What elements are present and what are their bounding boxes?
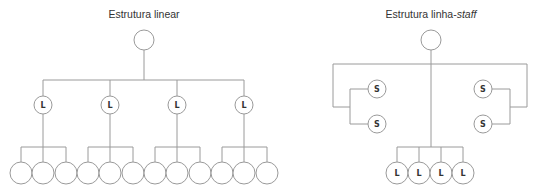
subordinate-node bbox=[256, 162, 278, 184]
org-node-label: L bbox=[416, 169, 421, 178]
subordinate-node bbox=[211, 162, 233, 184]
subordinate-node bbox=[189, 162, 211, 184]
org-node-label: L bbox=[107, 101, 112, 110]
subordinate-node bbox=[122, 162, 144, 184]
subordinate-node bbox=[32, 162, 54, 184]
subordinate-node bbox=[233, 162, 255, 184]
subordinate-node bbox=[166, 162, 188, 184]
org-node-label: L bbox=[174, 101, 179, 110]
org-node-label: S bbox=[480, 85, 486, 94]
org-node-label: S bbox=[374, 120, 380, 129]
top-manager-node bbox=[421, 30, 441, 50]
subordinate-node bbox=[10, 162, 32, 184]
subordinate-node bbox=[77, 162, 99, 184]
top-manager-node bbox=[134, 30, 154, 50]
org-node-label: S bbox=[374, 85, 380, 94]
subordinate-node bbox=[99, 162, 121, 184]
org-node-label: L bbox=[394, 169, 399, 178]
org-node-label: L bbox=[438, 169, 443, 178]
org-node-label: S bbox=[480, 120, 486, 129]
org-node-label: L bbox=[40, 101, 45, 110]
subordinate-node bbox=[55, 162, 77, 184]
org-charts-canvas: LLLLSSSSLLLL bbox=[0, 0, 538, 196]
org-node-label: L bbox=[241, 101, 246, 110]
org-node-label: L bbox=[460, 169, 465, 178]
subordinate-node bbox=[144, 162, 166, 184]
